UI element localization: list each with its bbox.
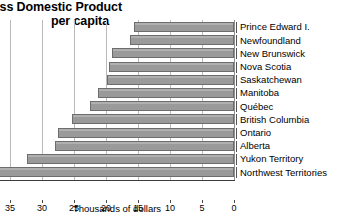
category-tick [236,154,237,165]
category-tick [236,167,237,178]
category-label: Ontario [240,126,271,139]
category-tick [236,48,237,59]
category-labels: Prince Edward I.NewfoundlandNew Brunswic… [236,20,344,180]
category-label: Québec [240,100,273,113]
category-tick [236,114,237,125]
bar-highlight [135,23,233,25]
bar-highlight [56,142,233,144]
bar-row [0,74,234,87]
bar[interactable] [55,141,234,151]
bar-row [0,61,234,74]
category-tick [236,88,237,99]
bar-highlight [28,155,233,157]
category-tick [236,35,237,46]
category-label: Newfoundland [240,34,301,47]
category-label: Northwest Territories [240,166,327,179]
bar-highlight [59,129,233,131]
category-label: Yukon Territory [240,152,303,165]
category-tick [236,101,237,112]
bar[interactable] [72,114,234,124]
bar-rows [0,20,234,180]
gridline-0 [234,20,235,180]
bar[interactable] [27,154,234,164]
category-label: Alberta [240,139,270,152]
bar-row [0,140,234,153]
category-tick [236,128,237,139]
bar-row [0,113,234,126]
category-label: Nova Scotia [240,60,291,73]
bar-row [0,87,234,100]
x-axis-line [0,180,235,181]
x-axis-title: Thousands of dollars [0,203,234,214]
category-tick [236,75,237,86]
bar[interactable] [130,35,234,45]
bar-highlight [108,76,233,78]
bar[interactable] [58,128,234,138]
bar-highlight [110,63,233,65]
gdp-per-capita-bar-chart: oss Domestic Product per capita Prince E… [0,0,344,216]
chart-title: oss Domestic Product [0,1,122,14]
bar[interactable] [134,22,234,32]
category-label: Prince Edward I. [240,20,310,33]
plot-area [0,20,234,180]
bar-row [0,34,234,47]
bar-row [0,21,234,34]
bar[interactable] [109,62,234,72]
category-tick [236,141,237,152]
bar-row [0,166,234,179]
bar-highlight [113,49,233,51]
bar[interactable] [98,88,234,98]
bar-row [0,127,234,140]
bar[interactable] [0,167,234,177]
bar-row [0,47,234,60]
bar[interactable] [107,75,234,85]
category-label: New Brunswick [240,47,305,60]
bar[interactable] [90,101,234,111]
bar-highlight [99,89,233,91]
bar-row [0,153,234,166]
bar-highlight [73,115,233,117]
bar-highlight [0,168,233,170]
bar-row [0,100,234,113]
bar[interactable] [112,48,234,58]
bar-highlight [131,36,233,38]
category-label: Manitoba [240,86,279,99]
category-tick [236,62,237,73]
category-label: British Columbia [240,113,309,126]
category-tick [236,22,237,33]
category-label: Saskatchewan [240,73,302,86]
bar-highlight [91,102,233,104]
